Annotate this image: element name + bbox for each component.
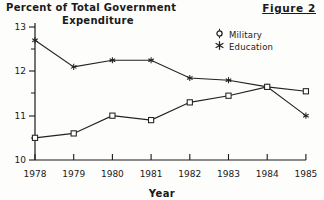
chart-legend: Military Education <box>212 29 273 53</box>
data-point-military <box>71 131 76 136</box>
x-tick-group <box>35 154 306 160</box>
x-tick-label: 1983 <box>217 169 240 179</box>
x-tick-label: 1981 <box>140 169 163 179</box>
x-tick-labels: 1978 1979 1980 1981 1982 1983 1984 1985 <box>24 169 318 179</box>
legend-label-military: Military <box>229 30 262 40</box>
legend-item-education: Education <box>212 41 273 53</box>
x-tick-label: 1978 <box>24 169 47 179</box>
x-tick-label: 1982 <box>178 169 201 179</box>
data-point-military <box>265 84 270 89</box>
y-tick-labels: 13 12 11 10 <box>15 22 27 165</box>
y-tick-label: 10 <box>15 155 27 165</box>
y-tick-label: 13 <box>15 22 26 32</box>
y-tick-label: 11 <box>15 111 26 121</box>
asterisk-icon <box>212 40 226 54</box>
series-line-military <box>35 87 306 138</box>
x-tick-label: 1985 <box>294 169 317 179</box>
data-point-military <box>32 135 37 140</box>
x-tick-label: 1984 <box>256 169 279 179</box>
y-tick-label: 12 <box>15 66 26 76</box>
data-point-military <box>226 93 231 98</box>
x-tick-label: 1980 <box>101 169 124 179</box>
data-point-military <box>303 89 308 94</box>
x-tick-label: 1979 <box>62 169 85 179</box>
data-point-military <box>149 118 154 123</box>
series-military <box>32 84 308 140</box>
legend-label-education: Education <box>229 42 273 52</box>
chart-plot-area: 13 12 11 10 1978 1979 1980 1981 1982 198… <box>0 0 324 200</box>
data-point-education <box>303 113 309 119</box>
x-axis-title: Year <box>0 188 324 199</box>
data-point-military <box>187 100 192 105</box>
figure-container: Percent of Total Government Expenditure … <box>0 0 324 200</box>
data-point-education <box>32 37 38 43</box>
data-point-military <box>110 113 115 118</box>
